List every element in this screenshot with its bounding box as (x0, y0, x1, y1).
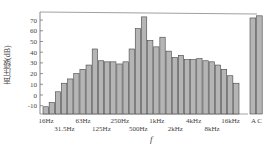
x-tick-label: 500Hz (129, 125, 148, 133)
x-tick-label: 63Hz (75, 117, 90, 125)
y-tick-label: 50 (30, 38, 38, 46)
bar-12.5kHz (221, 69, 226, 114)
x-tick-label: 4kHz (186, 117, 201, 125)
bar-weighted-A (250, 18, 256, 114)
y-tick-label: 40 (30, 49, 38, 57)
bar-125Hz (98, 61, 103, 114)
y-tick-label: 10 (30, 81, 38, 89)
x-tick-label: 8kHz (205, 125, 220, 133)
y-tick-label: 30 (30, 59, 38, 67)
bar-500Hz (135, 29, 140, 114)
x-tick-label: 1kHz (149, 117, 164, 125)
bar-63Hz (80, 69, 85, 114)
y-tick-label: 70 (30, 17, 38, 25)
bar-20Hz (49, 102, 54, 114)
bar-100Hz (92, 49, 97, 114)
bar-8kHz (209, 62, 214, 114)
bar-31.5Hz (61, 83, 66, 114)
x-tick-label: 31.5Hz (54, 125, 74, 133)
y-tick-label: -10 (28, 102, 38, 110)
bar-25Hz (55, 92, 60, 114)
x-tick-label: 125Hz (92, 125, 111, 133)
x-tick-label: 16Hz (38, 117, 53, 125)
top-border (40, 12, 257, 14)
spectrum-chart: -1001020304050607016Hz63Hz250Hz1kHz4kHz1… (0, 0, 269, 147)
bar-10kHz (215, 65, 220, 114)
bar-40Hz (68, 79, 73, 114)
bar-20kHz (234, 83, 239, 114)
bar-weighted-C (257, 16, 263, 114)
bar-3.15kHz (184, 60, 189, 114)
x-axis-label: f (150, 134, 153, 144)
weighted-label: A C (251, 117, 262, 125)
y-tick-label: 0 (34, 92, 38, 100)
bar-2kHz (172, 58, 177, 114)
bar-160Hz (105, 62, 110, 114)
bar-1.25kHz (160, 37, 165, 114)
x-tick-label: 16kHz (221, 117, 240, 125)
bar-2.5kHz (178, 55, 183, 114)
bar-315Hz (123, 62, 128, 114)
bar-16Hz (43, 107, 48, 114)
x-tick-label: 250Hz (111, 117, 130, 125)
bar-1.6kHz (166, 51, 171, 114)
y-axis-label: 声压级(dB) (2, 30, 16, 100)
bar-250Hz (117, 64, 122, 114)
bar-400Hz (129, 49, 134, 114)
y-tick-label: 60 (30, 27, 38, 35)
bar-80Hz (86, 65, 91, 114)
bar-4kHz (191, 60, 196, 114)
x-tick-label: 2kHz (168, 125, 183, 133)
bar-1kHz (154, 47, 159, 114)
bar-630Hz (141, 17, 146, 114)
bar-50Hz (74, 74, 79, 114)
bar-200Hz (111, 62, 116, 114)
bar-chart-svg: -1001020304050607016Hz63Hz250Hz1kHz4kHz1… (0, 0, 269, 147)
bar-800Hz (148, 40, 153, 114)
bar-16kHz (228, 76, 233, 114)
y-tick-label: 20 (30, 70, 38, 78)
bar-6.3kHz (203, 61, 208, 114)
bar-5kHz (197, 59, 202, 114)
